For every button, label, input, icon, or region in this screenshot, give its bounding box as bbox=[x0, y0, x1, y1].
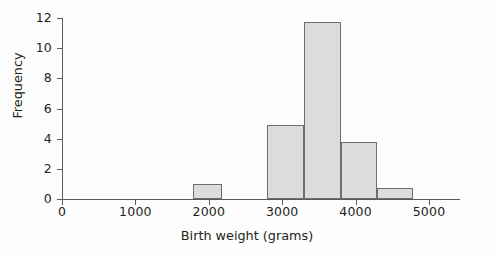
histogram-bar bbox=[304, 22, 341, 199]
y-axis-tick-label: 12 bbox=[22, 12, 52, 24]
y-axis-tick-label: 0 bbox=[22, 193, 52, 205]
x-axis-tick-label: 0 bbox=[32, 205, 92, 219]
x-axis-tick-label: 4000 bbox=[326, 205, 386, 219]
y-axis-tick bbox=[57, 78, 63, 79]
y-axis-tick-label: 10 bbox=[22, 42, 52, 54]
x-axis-tick-label: 3000 bbox=[252, 205, 312, 219]
histogram-bar bbox=[377, 188, 413, 199]
x-axis-tick-label: 2000 bbox=[179, 205, 239, 219]
x-axis-line bbox=[62, 199, 460, 200]
histogram-figure: 0 1000 2000 3000 4000 5000 0 2 4 6 8 10 … bbox=[0, 0, 494, 253]
y-axis-tick bbox=[57, 18, 63, 19]
histogram-bar bbox=[341, 142, 377, 199]
histogram-bar bbox=[267, 125, 304, 199]
x-axis-tick-label: 1000 bbox=[105, 205, 165, 219]
histogram-bar bbox=[193, 184, 222, 199]
x-axis-title: Birth weight (grams) bbox=[0, 228, 494, 243]
y-axis-tick bbox=[57, 109, 63, 110]
y-axis-tick-label: 8 bbox=[22, 72, 52, 84]
x-axis-tick-label: 5000 bbox=[399, 205, 459, 219]
y-axis-tick bbox=[57, 48, 63, 49]
y-axis-tick-label: 4 bbox=[22, 133, 52, 145]
y-axis-tick bbox=[57, 169, 63, 170]
y-axis-tick-label: 2 bbox=[22, 163, 52, 175]
y-axis-tick bbox=[57, 139, 63, 140]
y-axis-tick bbox=[57, 199, 63, 200]
plot-area: 0 1000 2000 3000 4000 5000 0 2 4 6 8 10 … bbox=[0, 0, 494, 253]
y-axis-title: Frequency bbox=[10, 31, 25, 141]
y-axis-tick-label: 6 bbox=[22, 103, 52, 115]
